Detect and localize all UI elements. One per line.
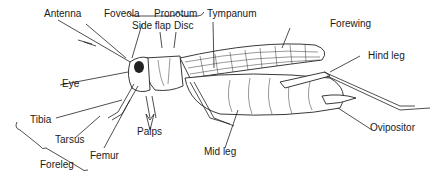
eye-shape xyxy=(134,61,144,73)
label-foreleg: Foreleg xyxy=(40,159,74,170)
grasshopper-diagram: Antenna Foveola Pronotum Side flap Disc … xyxy=(0,0,437,180)
antenna-shape xyxy=(58,20,132,63)
label-pronotum: Pronotum xyxy=(154,8,197,19)
label-tarsus: Tarsus xyxy=(55,134,84,145)
label-disc: Disc xyxy=(174,20,193,31)
label-eye: Eye xyxy=(62,78,79,89)
label-forewing: Forewing xyxy=(330,18,371,29)
label-tympanum: Tympanum xyxy=(207,8,256,19)
label-palps: Palps xyxy=(137,126,162,137)
label-mid-leg: Mid leg xyxy=(204,146,236,157)
label-side-flap: Side flap xyxy=(132,20,171,31)
pronotum-shape xyxy=(145,56,183,91)
label-hind-leg: Hind leg xyxy=(368,50,405,61)
label-ovipositor: Ovipositor xyxy=(370,122,415,133)
ovipositor-shape xyxy=(322,95,356,104)
label-foveola: Foveola xyxy=(104,8,140,19)
label-femur: Femur xyxy=(90,150,119,161)
label-tibia: Tibia xyxy=(30,114,51,125)
label-antenna: Antenna xyxy=(44,8,81,19)
